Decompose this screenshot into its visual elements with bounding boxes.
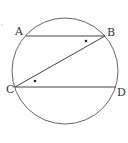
label-c: C	[6, 83, 14, 96]
label-a: A	[14, 25, 24, 38]
angle-mark-c	[34, 80, 37, 83]
stray-mark	[1, 24, 2, 25]
segment-cb	[15, 36, 105, 87]
geometry-figure: A B C D	[0, 0, 128, 143]
label-b: B	[107, 26, 115, 39]
circle	[12, 18, 118, 124]
angle-mark-b	[85, 40, 88, 43]
label-d: D	[117, 86, 126, 99]
